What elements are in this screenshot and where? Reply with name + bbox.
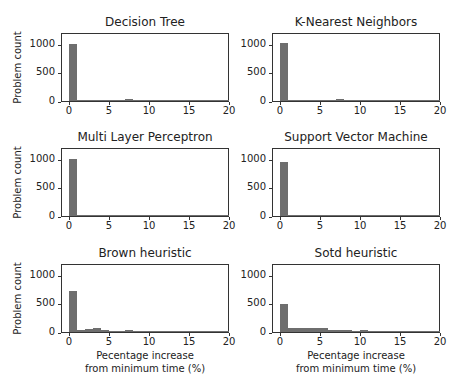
histogram-bar <box>69 44 77 102</box>
x-tick-label: 5 <box>310 336 330 347</box>
y-tick-mark <box>269 160 272 161</box>
y-tick-label: 0 <box>236 95 266 106</box>
histogram-bar <box>400 100 408 101</box>
y-tick-mark <box>58 73 61 74</box>
histogram-bar <box>213 331 221 332</box>
histogram-bar <box>432 100 440 101</box>
histogram-bar <box>424 215 432 216</box>
y-axis-label: Problem count <box>12 27 23 107</box>
histogram-bar <box>85 100 93 101</box>
histogram-bar <box>197 331 205 332</box>
plot-area <box>61 148 229 217</box>
histogram-bar <box>93 215 101 216</box>
plot-area <box>272 148 440 217</box>
histogram-bar <box>205 215 213 216</box>
x-tick-mark <box>69 217 70 220</box>
y-tick-mark <box>269 304 272 305</box>
histogram-bar <box>141 331 149 332</box>
y-tick-label: 0 <box>236 210 266 221</box>
y-tick-label: 500 <box>236 66 266 77</box>
histogram-bar <box>133 215 141 216</box>
histogram-bar <box>288 100 296 101</box>
histogram-bar <box>312 100 320 101</box>
x-tick-mark <box>149 333 150 336</box>
histogram-bar <box>133 331 141 332</box>
x-tick-mark <box>229 217 230 220</box>
histogram-bar <box>69 291 77 332</box>
histogram-bar <box>221 215 229 216</box>
x-tick-mark <box>109 333 110 336</box>
y-tick-label: 1000 <box>236 153 266 164</box>
x-tick-mark <box>400 102 401 105</box>
histogram-bar <box>77 100 85 101</box>
histogram-bar <box>408 100 416 101</box>
x-tick-label: 5 <box>99 220 119 231</box>
y-tick-label: 0 <box>25 95 55 106</box>
histogram-bar <box>432 331 440 332</box>
y-tick-mark <box>58 188 61 189</box>
histogram-bar <box>77 215 85 216</box>
x-tick-mark <box>189 102 190 105</box>
histogram-bar <box>368 215 376 216</box>
x-tick-mark <box>280 217 281 220</box>
histogram-bar <box>197 215 205 216</box>
histogram-bar <box>352 100 360 101</box>
y-tick-mark <box>269 102 272 103</box>
histogram-bar <box>344 330 352 332</box>
y-tick-label: 0 <box>25 326 55 337</box>
histogram-bar <box>304 100 312 101</box>
y-tick-mark <box>58 45 61 46</box>
histogram-bar <box>384 100 392 101</box>
histogram-bar <box>328 330 336 332</box>
x-tick-label: 15 <box>179 105 199 116</box>
x-tick-label: 10 <box>139 220 159 231</box>
histogram-bar <box>205 100 213 101</box>
histogram-bar <box>400 215 408 216</box>
histogram-bar <box>117 331 125 332</box>
y-tick-mark <box>269 217 272 218</box>
x-tick-label: 0 <box>270 105 290 116</box>
x-tick-label: 0 <box>59 105 79 116</box>
histogram-bar <box>280 304 288 332</box>
histogram-bar <box>344 100 352 101</box>
x-tick-label: 5 <box>99 105 119 116</box>
histogram-bar <box>213 100 221 101</box>
histogram-bar <box>280 162 288 216</box>
chart-title: Sotd heuristic <box>272 246 440 260</box>
y-axis-label: Problem count <box>12 258 23 338</box>
x-tick-mark <box>229 333 230 336</box>
histogram-bar <box>344 215 352 216</box>
histogram-bar <box>296 215 304 216</box>
histogram-bar <box>125 330 133 332</box>
histogram-bar <box>125 99 133 101</box>
histogram-bar <box>304 328 312 332</box>
x-tick-mark <box>320 217 321 220</box>
x-tick-mark <box>320 102 321 105</box>
histogram-bar <box>93 100 101 101</box>
histogram-bar <box>384 215 392 216</box>
x-tick-mark <box>280 333 281 336</box>
x-tick-mark <box>149 217 150 220</box>
x-tick-label: 15 <box>390 336 410 347</box>
x-tick-label: 0 <box>59 336 79 347</box>
histogram-bar <box>312 215 320 216</box>
y-tick-label: 1000 <box>236 38 266 49</box>
y-tick-mark <box>58 333 61 334</box>
x-tick-label: 20 <box>219 336 239 347</box>
y-tick-mark <box>269 276 272 277</box>
x-tick-mark <box>69 333 70 336</box>
x-tick-label: 5 <box>310 220 330 231</box>
x-tick-label: 20 <box>219 105 239 116</box>
histogram-bar <box>392 215 400 216</box>
histogram-bar <box>376 331 384 332</box>
histogram-bar <box>392 100 400 101</box>
histogram-bar <box>93 328 101 332</box>
histogram-bar <box>280 43 288 101</box>
y-tick-label: 500 <box>25 66 55 77</box>
y-tick-label: 500 <box>25 297 55 308</box>
x-tick-label: 10 <box>350 336 370 347</box>
x-tick-mark <box>149 102 150 105</box>
histogram-bar <box>157 215 165 216</box>
y-tick-mark <box>269 333 272 334</box>
histogram-bar <box>173 215 181 216</box>
